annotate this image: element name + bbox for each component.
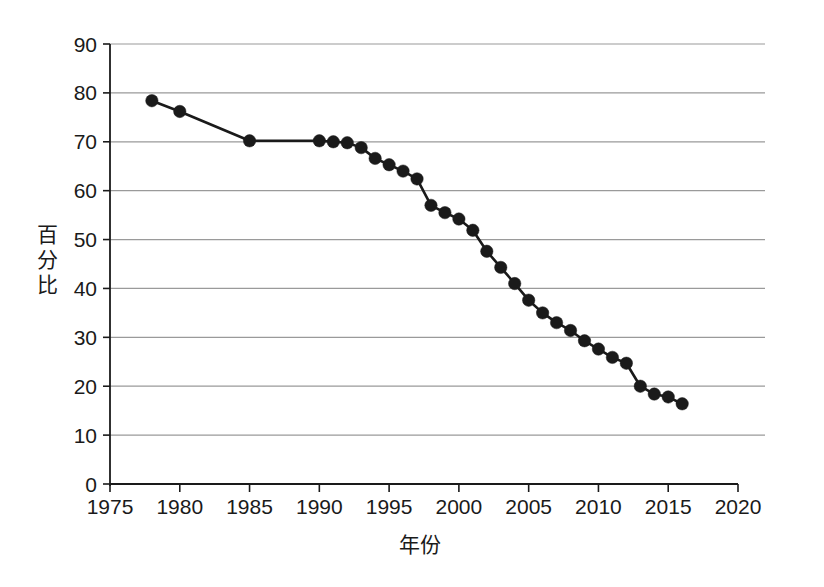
y-axis-title: 百 分 比 xyxy=(30,222,64,297)
data-point xyxy=(578,335,590,347)
axes-group xyxy=(103,44,738,492)
x-tick-label-1975: 1975 xyxy=(87,495,134,518)
data-point xyxy=(509,277,521,289)
data-line xyxy=(152,101,682,404)
data-point xyxy=(606,351,618,363)
data-point xyxy=(467,224,479,236)
x-tick-label-2010: 2010 xyxy=(575,495,622,518)
x-tick-label-2000: 2000 xyxy=(436,495,483,518)
y-axis-title-char-1: 百 xyxy=(30,222,64,247)
data-point xyxy=(355,141,367,153)
data-point xyxy=(634,380,646,392)
y-tick-label-10: 10 xyxy=(74,424,97,447)
x-axis-title: 年份 xyxy=(0,528,824,558)
y-tick-label-60: 60 xyxy=(74,179,97,202)
data-point xyxy=(522,294,534,306)
y-tick-label-20: 20 xyxy=(74,375,97,398)
y-tick-label-90: 90 xyxy=(74,33,97,56)
data-point xyxy=(411,173,423,185)
x-tick-label-1995: 1995 xyxy=(366,495,413,518)
x-tick-label-2020: 2020 xyxy=(715,495,762,518)
data-point xyxy=(564,324,576,336)
y-tick-labels-group: 0102030405060708090 xyxy=(74,33,97,496)
chart-container: 百 分 比 0102030405060708090 19751980198519… xyxy=(0,0,824,587)
data-point xyxy=(369,152,381,164)
x-tick-labels-group: 1975198019851990199520002005201020152020 xyxy=(87,495,762,518)
data-point xyxy=(397,165,409,177)
x-tick-label-2005: 2005 xyxy=(505,495,552,518)
x-axis-title-label: 年份 xyxy=(399,533,441,556)
data-point xyxy=(536,307,548,319)
y-axis-title-char-3: 比 xyxy=(30,272,64,297)
data-point xyxy=(592,343,604,355)
line-chart-plot: 0102030405060708090 19751980198519901995… xyxy=(0,0,824,587)
data-point xyxy=(648,388,660,400)
y-tick-label-30: 30 xyxy=(74,326,97,349)
data-point xyxy=(676,398,688,410)
data-point xyxy=(146,95,158,107)
data-point xyxy=(439,206,451,218)
y-tick-label-70: 70 xyxy=(74,130,97,153)
y-tick-label-50: 50 xyxy=(74,228,97,251)
gridlines-group xyxy=(110,44,765,435)
data-point xyxy=(383,159,395,171)
x-tick-label-2015: 2015 xyxy=(645,495,692,518)
data-point xyxy=(341,137,353,149)
data-point xyxy=(327,136,339,148)
x-tick-label-1980: 1980 xyxy=(156,495,203,518)
y-tick-label-0: 0 xyxy=(85,473,97,496)
data-point xyxy=(550,316,562,328)
data-point xyxy=(495,261,507,273)
data-point xyxy=(453,213,465,225)
data-point xyxy=(243,135,255,147)
data-point xyxy=(313,135,325,147)
data-point xyxy=(620,357,632,369)
y-tick-label-40: 40 xyxy=(74,277,97,300)
data-point xyxy=(174,105,186,117)
x-tick-label-1985: 1985 xyxy=(226,495,273,518)
data-point xyxy=(662,391,674,403)
data-point xyxy=(425,199,437,211)
y-tick-label-80: 80 xyxy=(74,81,97,104)
data-point xyxy=(481,245,493,257)
y-axis-title-char-2: 分 xyxy=(30,247,64,272)
x-tick-label-1990: 1990 xyxy=(296,495,343,518)
